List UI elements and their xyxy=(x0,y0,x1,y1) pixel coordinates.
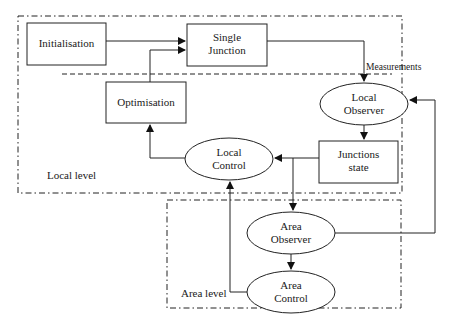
area-observer-line1: Area xyxy=(247,220,335,233)
junctions-state-line2: state xyxy=(319,161,398,174)
edge-localcontrol-to-optim xyxy=(150,125,185,158)
local-observer-line2: Observer xyxy=(320,104,408,117)
edge-optim-to-junction xyxy=(150,50,185,82)
area-observer-label: Area Observer xyxy=(247,220,335,246)
single-junction-line2: Junction xyxy=(187,44,267,57)
single-junction-label: Single Junction xyxy=(187,31,267,57)
initialisation-label: Initialisation xyxy=(27,37,106,50)
local-control-label: Local Control xyxy=(185,146,273,172)
junctions-state-label: Junctions state xyxy=(319,148,398,174)
junctions-state-line1: Junctions xyxy=(319,148,398,161)
measurements-label: Measurements xyxy=(366,61,421,74)
local-observer-line1: Local xyxy=(320,91,408,104)
optimisation-label: Optimisation xyxy=(106,96,186,109)
area-control-line1: Area xyxy=(247,279,335,292)
single-junction-line1: Single xyxy=(187,31,267,44)
area-control-line2: Control xyxy=(247,292,335,305)
local-control-line1: Local xyxy=(185,146,273,159)
area-observer-line2: Observer xyxy=(247,233,335,246)
edge-junction-to-observer xyxy=(267,41,364,81)
area-level-label: Area level xyxy=(181,287,227,300)
area-control-label: Area Control xyxy=(247,279,335,305)
local-control-line2: Control xyxy=(185,159,273,172)
local-observer-label: Local Observer xyxy=(320,91,408,117)
edge-areacontrol-to-localcontrol xyxy=(230,182,247,292)
local-level-label: Local level xyxy=(47,169,96,182)
